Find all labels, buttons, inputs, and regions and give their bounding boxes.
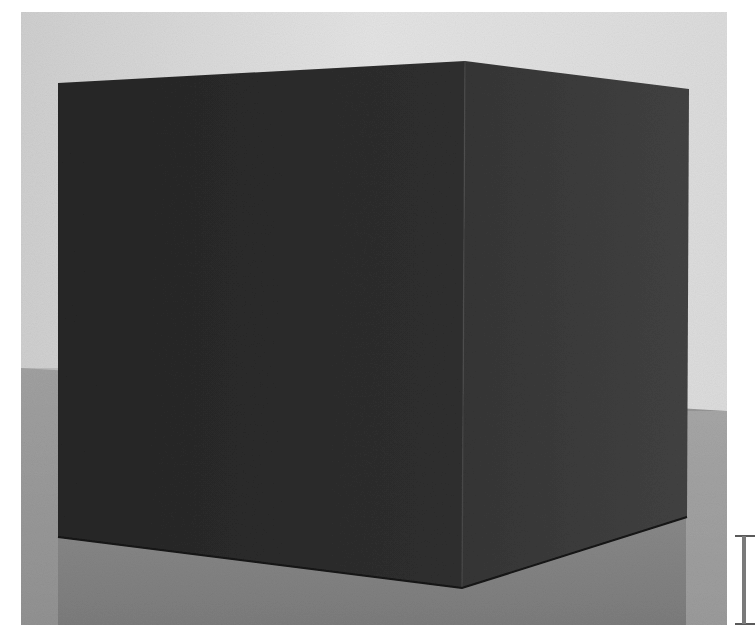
sculpture-photo (0, 0, 755, 642)
floor-reflection-left (21, 368, 58, 625)
text-cursor-ibeam-icon (733, 534, 755, 626)
floor-reflection (686, 411, 727, 625)
photo-frame (21, 12, 727, 625)
cube-right-face (462, 61, 689, 588)
cube-left-face (58, 61, 465, 588)
